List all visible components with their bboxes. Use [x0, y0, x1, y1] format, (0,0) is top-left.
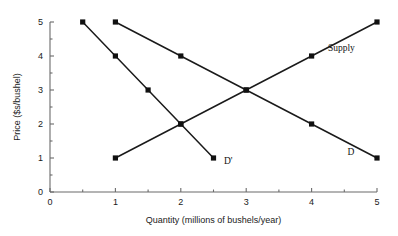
y-tick-label: 4: [38, 51, 43, 61]
x-axis-title: Quantity (millions of bushels/year): [146, 215, 282, 225]
series-label-supply: Supply: [328, 43, 355, 53]
data-marker: [178, 121, 183, 126]
data-marker: [374, 19, 379, 24]
data-marker: [113, 155, 118, 160]
y-tick-label: 1: [38, 153, 43, 163]
data-marker: [146, 87, 151, 92]
supply-demand-chart-figure: 012345012345 SupplyDD' Quantity (million…: [0, 0, 398, 236]
data-marker: [178, 53, 183, 58]
series-labels: SupplyDD': [224, 43, 355, 166]
y-tick-label: 5: [38, 17, 43, 27]
y-tick-label: 3: [38, 85, 43, 95]
data-marker: [374, 155, 379, 160]
x-tick-label: 1: [113, 197, 118, 207]
data-marker: [309, 53, 314, 58]
data-marker: [113, 19, 118, 24]
series-label-d: D: [348, 147, 355, 157]
data-point-markers: [80, 19, 380, 160]
y-tick-label: 0: [38, 187, 43, 197]
x-tick-label: 2: [178, 197, 183, 207]
data-marker: [80, 19, 85, 24]
x-tick-label: 4: [309, 197, 314, 207]
data-marker: [244, 87, 249, 92]
y-axis-title: Price ($s/bushel): [12, 73, 22, 141]
x-tick-label: 3: [244, 197, 249, 207]
series-label-dprime: D': [224, 156, 233, 166]
data-marker: [113, 53, 118, 58]
x-tick-label: 5: [374, 197, 379, 207]
data-marker: [211, 155, 216, 160]
x-tick-label: 0: [47, 197, 52, 207]
data-marker: [309, 121, 314, 126]
y-tick-label: 2: [38, 119, 43, 129]
chart-canvas: 012345012345 SupplyDD' Quantity (million…: [0, 0, 398, 236]
